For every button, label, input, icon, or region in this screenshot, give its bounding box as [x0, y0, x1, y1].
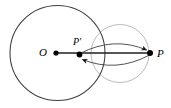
point-O — [53, 50, 58, 55]
figure-canvas — [0, 0, 171, 108]
point-label-P: P — [157, 48, 164, 59]
point-label-p-prime: P′ — [73, 37, 81, 47]
geometry-figure: O P′ P — [0, 0, 171, 108]
arc-pprime-to-p — [80, 44, 147, 54]
point-P — [147, 50, 153, 56]
point-P-prime — [77, 52, 83, 58]
point-label-O: O — [39, 47, 47, 58]
